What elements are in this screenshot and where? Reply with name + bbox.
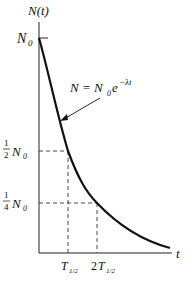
decay-curve	[39, 38, 170, 248]
equation-arrow	[64, 98, 100, 119]
svg-text:2: 2	[4, 150, 9, 160]
svg-text:T: T	[98, 259, 106, 273]
svg-text:e: e	[112, 80, 118, 95]
y-tick-quarter-n0: 1 4 N 0	[3, 190, 27, 213]
x-tick-half-life: T 1/2	[61, 259, 78, 275]
x-axis-label: t	[176, 246, 180, 261]
svg-text:0: 0	[107, 89, 111, 98]
arrowhead-icon	[60, 114, 68, 121]
svg-text:1/2: 1/2	[106, 267, 115, 275]
svg-text:T: T	[61, 259, 69, 273]
decay-diagram: N(t) t N 0 1 2 N 0 1 4 N 0 T 1/2 2 T 1/2…	[0, 0, 190, 281]
svg-text:0: 0	[23, 152, 27, 161]
y-tick-n0: N 0	[16, 31, 33, 48]
svg-text:−λt: −λt	[119, 77, 132, 87]
svg-text:2: 2	[91, 259, 97, 273]
svg-text:N: N	[11, 196, 22, 211]
svg-text:0: 0	[28, 38, 33, 48]
svg-text:1/2: 1/2	[69, 267, 78, 275]
svg-text:1: 1	[4, 138, 9, 148]
half-life-guides	[39, 151, 97, 253]
svg-text:0: 0	[23, 204, 27, 213]
svg-text:1: 1	[4, 190, 9, 200]
decay-equation: N = N 0 e −λt	[69, 77, 132, 98]
y-axis-label: N(t)	[27, 3, 49, 18]
svg-text:N = N: N = N	[69, 80, 104, 95]
svg-text:N: N	[16, 31, 27, 46]
svg-text:4: 4	[4, 202, 9, 212]
x-tick-two-half-life: 2 T 1/2	[91, 259, 115, 275]
y-tick-half-n0: 1 2 N 0	[3, 138, 27, 161]
svg-text:N: N	[11, 144, 22, 159]
